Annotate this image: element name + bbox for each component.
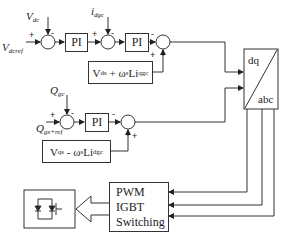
transform-top-label: dq — [248, 54, 259, 66]
idgc-sign: - — [111, 29, 114, 38]
ff-q-wire — [110, 130, 128, 151]
pi-controller-2: PI — [125, 33, 149, 52]
pwm-line-1: PWM — [116, 185, 145, 200]
phase-b-wire — [169, 109, 262, 205]
vdc-label: Vdc — [26, 11, 39, 24]
phase-a-wire — [169, 109, 247, 192]
feedforward-d-block: Vds + ωsLiqgc — [88, 61, 153, 84]
d-output-wire — [170, 42, 243, 72]
gate-signal-arrow — [76, 196, 109, 222]
pwm-igbt-switching-block: PWM IGBT Switching — [109, 182, 169, 232]
sum-junction-3 — [156, 35, 170, 49]
vdcref-sign: + — [29, 31, 34, 40]
qgc-label: Qgc — [50, 85, 65, 98]
pi-controller-1: PI — [65, 33, 88, 52]
feedforward-q-block: Vqs - ωsLidgc — [42, 140, 111, 163]
q-output-wire — [135, 88, 243, 122]
vdcref-label: Vdcref — [2, 42, 23, 55]
idgc-label: idgc — [91, 6, 104, 19]
sum5-ff-sign: + — [132, 132, 137, 141]
pwm-line-2: IGBT — [116, 200, 144, 215]
sum3-controller-sign: - — [151, 30, 154, 39]
sum5-controller-sign: - — [112, 110, 115, 119]
sum-junction-5 — [121, 115, 135, 129]
phase-c-wire — [169, 109, 274, 216]
qgc-sign: - — [71, 109, 74, 118]
pi-controller-3: PI — [85, 113, 109, 132]
pwm-line-3: Switching — [116, 215, 165, 230]
qref-sign: + — [50, 111, 55, 120]
transform-bottom-label: abc — [258, 93, 273, 105]
sum3-ff-sign: + — [150, 51, 155, 60]
converter-box — [24, 190, 75, 228]
inner-ref-sign: + — [92, 30, 97, 39]
vdc-sign: - — [51, 29, 54, 38]
qref-label: Qgs+ref — [36, 123, 62, 136]
